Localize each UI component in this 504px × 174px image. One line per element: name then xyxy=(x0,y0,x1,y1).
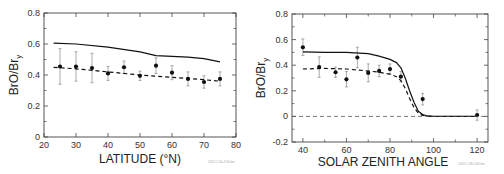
model-solid-line xyxy=(303,52,477,117)
y-tick-label: 0.8 xyxy=(27,8,40,18)
data-point xyxy=(355,55,359,59)
x-tick-label: 60 xyxy=(167,140,177,150)
data-point xyxy=(388,67,392,71)
model-solid-line xyxy=(54,43,220,62)
x-tick-label: 20 xyxy=(39,140,49,150)
data-series xyxy=(54,43,223,88)
y-tick-label: 0.2 xyxy=(27,101,40,111)
x-tick-label: 100 xyxy=(426,145,441,155)
y-tick-label: 0.6 xyxy=(275,35,288,45)
y-tick-label: -0.2 xyxy=(272,137,288,147)
data-point xyxy=(90,66,94,70)
data-point xyxy=(399,75,403,79)
x-tick-label: 40 xyxy=(298,145,308,155)
y-tick-label: 0.2 xyxy=(275,86,288,96)
x-tick-label: 30 xyxy=(71,140,81,150)
y-tick-label: 0.6 xyxy=(27,39,40,49)
data-point xyxy=(74,64,78,68)
y-axis-title: BrO/Bry xyxy=(254,58,270,99)
data-point xyxy=(218,77,222,81)
x-tick-label: 60 xyxy=(341,145,351,155)
figure-credit: 2043.5.13a.1/60.bm xyxy=(208,160,235,164)
axis-ticks: 406080100120-0.200.20.40.60.8 xyxy=(272,9,488,155)
axis-ticks: 2030405060708000.20.40.60.8 xyxy=(27,8,241,150)
latitude-chart: 2030405060708000.20.40.60.8 LATITUDE (°N… xyxy=(7,8,241,166)
x-tick-label: 40 xyxy=(103,140,113,150)
data-point xyxy=(202,80,206,84)
data-point xyxy=(344,77,348,81)
model-dashed-line xyxy=(54,67,220,81)
y-tick-label: 0 xyxy=(35,132,40,142)
y-axis-title: BrO/Bry xyxy=(7,55,23,96)
data-point xyxy=(421,97,425,101)
data-point xyxy=(154,64,158,68)
data-point xyxy=(170,71,174,75)
x-tick-label: 120 xyxy=(470,145,485,155)
data-point xyxy=(122,65,126,69)
plot-frame xyxy=(292,14,488,142)
y-tick-label: 0.8 xyxy=(275,9,288,19)
x-axis-title: SOLAR ZENITH ANGLE xyxy=(318,155,449,169)
x-tick-label: 50 xyxy=(135,140,145,150)
x-axis-title: LATITUDE (°N) xyxy=(99,152,181,166)
figure: 2030405060708000.20.40.60.8 LATITUDE (°N… xyxy=(0,0,504,174)
x-tick-label: 80 xyxy=(231,140,241,150)
y-tick-label: 0.4 xyxy=(275,60,288,70)
solar-zenith-angle-chart: 406080100120-0.200.20.40.60.8 SOLAR ZENI… xyxy=(254,9,488,169)
x-tick-label: 80 xyxy=(385,145,395,155)
data-point xyxy=(301,45,305,49)
data-point xyxy=(333,70,337,74)
data-series xyxy=(292,39,488,120)
x-tick-label: 70 xyxy=(199,140,209,150)
y-tick-label: 0 xyxy=(283,111,288,121)
figure-credit: 2043.5.13b.1/60.bm xyxy=(458,162,485,166)
y-tick-label: 0.4 xyxy=(27,70,40,80)
